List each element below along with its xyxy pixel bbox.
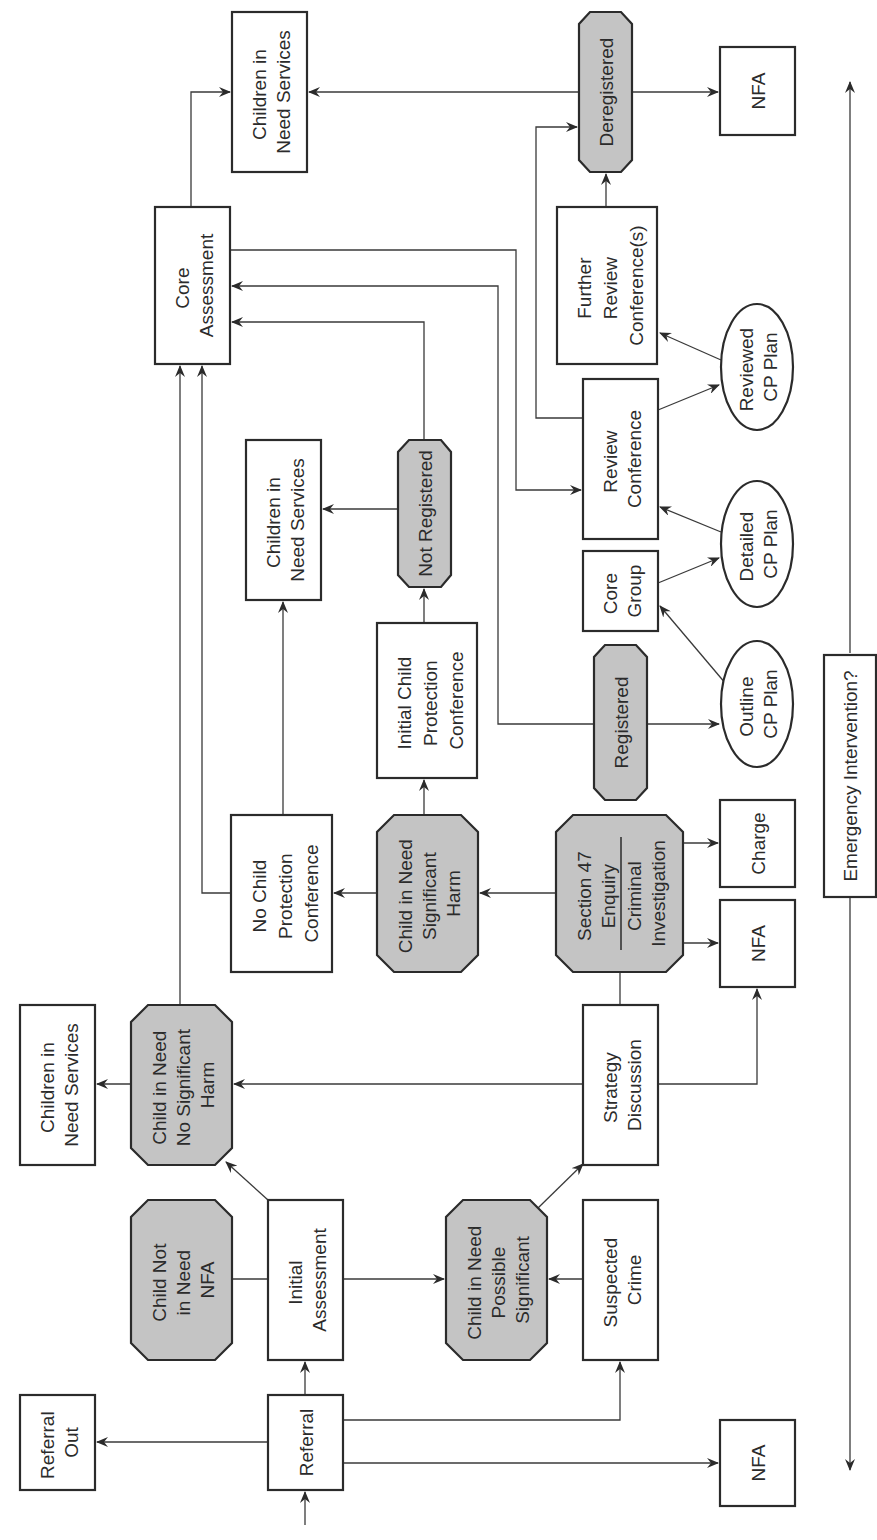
node-child-not-in-need[interactable]: Child Not in Need NFA bbox=[131, 1200, 232, 1360]
svg-text:Charge: Charge bbox=[748, 812, 769, 874]
node-child-possible-significant[interactable]: Child in Need Possible Significant bbox=[446, 1200, 547, 1360]
edge-no-cp-conference-core-assessment bbox=[202, 366, 231, 893]
svg-text:Initial Child Protecti: Initial Child Protection Conference bbox=[394, 651, 467, 749]
label-line: NFA bbox=[748, 72, 769, 109]
label-line: Child in Need bbox=[464, 1226, 485, 1340]
node-no-cp-conference[interactable]: No Child Protection Conference bbox=[231, 815, 332, 972]
node-charge[interactable]: Charge bbox=[720, 800, 795, 887]
node-cin-services-3[interactable]: Children in Need Services bbox=[232, 12, 307, 172]
label-line: Children in bbox=[37, 1042, 58, 1133]
label-line: Crime bbox=[624, 1255, 645, 1306]
node-suspected-crime[interactable]: Suspected Crime bbox=[583, 1200, 658, 1360]
label-line: Referral bbox=[37, 1411, 58, 1479]
node-initial-assessment[interactable]: Initial Assessment bbox=[268, 1200, 343, 1360]
label-line: No Child bbox=[249, 860, 270, 933]
label-line: Conference bbox=[446, 651, 467, 749]
label-line: Child in Need bbox=[149, 1031, 170, 1145]
node-reviewed-cp-plan[interactable]: Reviewed CP Plan bbox=[721, 304, 793, 430]
edge-reviewed-cp-plan-further-review bbox=[660, 333, 721, 360]
label-line: Core bbox=[172, 268, 193, 309]
node-referral-out[interactable]: Referral Out bbox=[20, 1395, 95, 1490]
label-line: Initial bbox=[285, 1260, 306, 1304]
label-line: Conference(s) bbox=[626, 225, 647, 345]
label-line: CP Plan bbox=[760, 509, 781, 578]
label-line: Emergency Intervention? bbox=[840, 670, 861, 881]
label-line: Harm bbox=[197, 1062, 218, 1108]
edge-possible-significant-strategy bbox=[538, 1164, 583, 1208]
label-line: Children in bbox=[263, 477, 284, 568]
svg-text:Not Registered: Not Registered bbox=[415, 450, 436, 577]
label-line: Group bbox=[624, 565, 645, 618]
edge-not-registered-core-assessment bbox=[232, 322, 424, 440]
svg-text:No Child Protection: No Child Protection Conference bbox=[249, 844, 322, 942]
edge-detailed-cp-plan-review-conference bbox=[660, 507, 721, 532]
svg-text:Referral: Referral bbox=[296, 1409, 317, 1477]
label-line: Assessment bbox=[196, 233, 217, 337]
label-line: NFA bbox=[197, 1261, 218, 1298]
label-line: NFA bbox=[748, 925, 769, 962]
node-strategy-discussion[interactable]: Strategy Discussion bbox=[583, 1005, 658, 1165]
label-line: No Significant bbox=[173, 1028, 194, 1146]
label-line: Outline bbox=[736, 677, 757, 737]
label-line: Criminal bbox=[624, 861, 645, 931]
label-line: Assessment bbox=[309, 1228, 330, 1332]
label-line: Child Not bbox=[149, 1243, 170, 1322]
node-initial-cp-conference[interactable]: Initial Child Protection Conference bbox=[377, 623, 477, 778]
label-line: Referral bbox=[296, 1409, 317, 1477]
svg-text:Emergency Intervention?: Emergency Intervention? bbox=[840, 670, 861, 881]
child-protection-flowchart: Referral Out Referral NFA Child Not in N… bbox=[0, 0, 877, 1540]
nodes: Referral Out Referral NFA Child Not in N… bbox=[20, 12, 876, 1506]
label-line: Enquiry bbox=[598, 863, 619, 928]
node-outline-cp-plan[interactable]: Outline CP Plan bbox=[721, 641, 793, 767]
label-line: Initial Child bbox=[394, 657, 415, 750]
label-line: Need Services bbox=[273, 30, 294, 154]
svg-text:NFA: NFA bbox=[748, 1444, 769, 1481]
edge-review-conference-reviewed-cp-plan bbox=[658, 385, 719, 410]
label-line: Conference bbox=[624, 410, 645, 508]
node-nfa-referral[interactable]: NFA bbox=[720, 1420, 795, 1506]
node-cin-services-2[interactable]: Children in Need Services bbox=[246, 440, 321, 600]
label-line: CP Plan bbox=[760, 669, 781, 738]
node-child-significant-harm[interactable]: Child in Need Significant Harm bbox=[377, 815, 478, 972]
svg-text:Deregistered: Deregistered bbox=[596, 38, 617, 147]
node-referral[interactable]: Referral bbox=[268, 1395, 343, 1490]
node-detailed-cp-plan[interactable]: Detailed CP Plan bbox=[721, 481, 793, 607]
label-line: Out bbox=[61, 1426, 82, 1457]
node-section47[interactable]: Section 47 Enquiry Criminal Investigatio… bbox=[556, 815, 683, 972]
label-line: Significant bbox=[419, 852, 440, 940]
node-registered[interactable]: Registered bbox=[594, 645, 647, 800]
edge-referral-suspected-crime bbox=[343, 1362, 620, 1420]
label-line: Significant bbox=[512, 1235, 533, 1323]
node-further-review[interactable]: Further Review Conference(s) bbox=[557, 207, 657, 364]
node-nfa-deregistered[interactable]: NFA bbox=[720, 47, 795, 135]
label-line: Discussion bbox=[624, 1039, 645, 1131]
node-review-conference[interactable]: Review Conference bbox=[583, 379, 658, 539]
label-line: Section 47 bbox=[574, 851, 595, 941]
edge-core-assessment-cin-services bbox=[191, 92, 230, 207]
node-emergency-intervention[interactable]: Emergency Intervention? bbox=[824, 655, 876, 897]
edge-outline-cp-plan-core-group bbox=[660, 606, 726, 684]
label-line: Reviewed bbox=[736, 328, 757, 411]
node-deregistered[interactable]: Deregistered bbox=[579, 12, 632, 172]
label-line: Child in Need bbox=[395, 839, 416, 953]
label-line: Investigation bbox=[648, 840, 669, 947]
node-core-group[interactable]: Core Group bbox=[583, 551, 658, 631]
label-line: Deregistered bbox=[596, 38, 617, 147]
label-line: Harm bbox=[443, 870, 464, 916]
node-cin-services-1[interactable]: Children in Need Services bbox=[20, 1005, 95, 1165]
label-line: Review bbox=[600, 257, 621, 320]
edge-strategy-nfa bbox=[658, 989, 757, 1084]
label-line: Suspected bbox=[600, 1238, 621, 1328]
edge-core-group-detailed-cp-plan bbox=[658, 558, 719, 583]
node-core-assessment[interactable]: Core Assessment bbox=[155, 207, 230, 364]
label-line: Charge bbox=[748, 812, 769, 874]
label-line: Protection bbox=[275, 853, 296, 939]
label-line: Children in bbox=[249, 49, 270, 140]
node-nfa-section47[interactable]: NFA bbox=[720, 900, 795, 987]
label-line: in Need bbox=[173, 1250, 194, 1316]
node-child-no-significant-harm[interactable]: Child in Need No Significant Harm bbox=[131, 1005, 232, 1165]
label-line: Core bbox=[600, 573, 621, 614]
node-not-registered[interactable]: Not Registered bbox=[398, 440, 451, 587]
label-line: CP Plan bbox=[760, 332, 781, 401]
label-line: Need Services bbox=[61, 1023, 82, 1147]
